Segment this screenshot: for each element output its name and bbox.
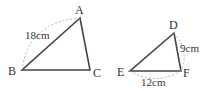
side-ab-length: 18cm xyxy=(25,29,50,41)
vertex-d-label: D xyxy=(169,18,178,32)
diagram-canvas: A B C 18cm D E F 9cm 12cm xyxy=(0,0,212,91)
triangle-def-shape xyxy=(130,33,181,71)
triangle-abc: A B C 18cm xyxy=(8,3,101,80)
vertex-a-label: A xyxy=(75,3,84,17)
triangle-def: D E F 9cm 12cm xyxy=(117,18,199,88)
vertex-e-label: E xyxy=(117,65,124,79)
side-df-length: 9cm xyxy=(180,42,199,54)
vertex-b-label: B xyxy=(8,64,16,78)
vertex-f-label: F xyxy=(183,66,190,80)
side-ef-length: 12cm xyxy=(141,76,166,88)
triangle-abc-shape xyxy=(22,18,90,70)
vertex-c-label: C xyxy=(93,66,101,80)
